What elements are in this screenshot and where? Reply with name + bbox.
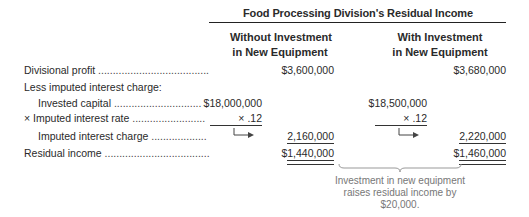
- column-header-line2: in New Equipment: [230, 45, 330, 60]
- residual-income-without: $1,440,000: [270, 147, 334, 159]
- invested-capital-without: $18,000,000: [200, 97, 262, 109]
- label-text: Imputed interest charge: [38, 130, 148, 142]
- column-header-line1: With Investment: [390, 30, 490, 45]
- subtotal-rule-with: [459, 143, 506, 144]
- table-title: Food Processing Division's Residual Inco…: [210, 7, 506, 19]
- divisional-profit-without: $3,600,000: [270, 64, 334, 76]
- row-label-divisional-profit: Divisional profit ......................…: [24, 64, 209, 76]
- imputed-rate-with: × .12: [365, 112, 427, 124]
- row-label-residual-income: Residual income ........................…: [24, 147, 210, 159]
- brace-icon: [338, 163, 462, 173]
- residual-income-with: $1,460,000: [432, 147, 506, 159]
- label-text: Residual income: [24, 147, 102, 159]
- multiplication-rule-with: [375, 125, 427, 126]
- imputed-charge-without: 2,160,000: [270, 130, 334, 142]
- column-header-line2: in New Equipment: [390, 45, 490, 60]
- row-label-less-imputed-interest: Less imputed interest charge:: [24, 81, 162, 93]
- double-underline-with: [459, 160, 506, 165]
- leader-dots: ....................................: [102, 147, 210, 159]
- imputed-rate-without: × .12: [200, 112, 262, 124]
- double-underline-without: [287, 160, 334, 165]
- annotation-note: Investment in new equipment raises resid…: [330, 175, 470, 211]
- column-header-without-investment: Without Investment in New Equipment: [230, 30, 330, 60]
- label-text: Divisional profit: [24, 64, 95, 76]
- arrow-right-icon: [398, 128, 420, 138]
- divisional-profit-with: $3,680,000: [432, 64, 506, 76]
- column-header-line1: Without Investment: [230, 30, 330, 45]
- leader-dots: .........................: [129, 112, 205, 124]
- multiplication-rule-without: [210, 125, 262, 126]
- label-text: × Imputed interest rate: [24, 112, 129, 124]
- row-label-imputed-interest-charge: Imputed interest charge ................…: [38, 130, 207, 142]
- title-underline: [209, 22, 506, 23]
- leader-dots: ...................: [148, 130, 206, 142]
- imputed-charge-with: 2,220,000: [432, 130, 506, 142]
- arrow-right-icon: [233, 128, 255, 138]
- row-label-invested-capital: Invested capital .......................…: [38, 97, 201, 109]
- subtotal-rule-without: [287, 143, 334, 144]
- invested-capital-with: $18,500,000: [365, 97, 427, 109]
- label-text: Invested capital: [38, 97, 111, 109]
- leader-dots: ......................................: [95, 64, 209, 76]
- column-header-with-investment: With Investment in New Equipment: [390, 30, 490, 60]
- leader-dots: ..............................: [111, 97, 201, 109]
- row-label-imputed-interest-rate: × Imputed interest rate ................…: [24, 112, 205, 124]
